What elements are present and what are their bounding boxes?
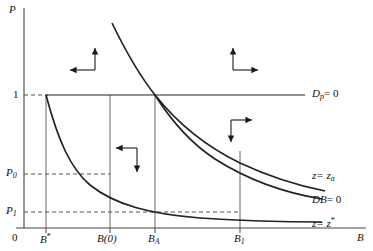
bstar-base: B	[40, 233, 47, 245]
bstar-superscript: *	[47, 232, 51, 241]
db-rhs: = 0	[327, 193, 341, 205]
diagram-canvas	[0, 0, 373, 251]
dp-base: D	[312, 87, 320, 99]
y-tick-label-p0: P0	[6, 167, 17, 180]
dp-rhs: = 0	[324, 87, 338, 99]
curve-label-z-a: z= za	[312, 170, 335, 183]
ba-base: B	[148, 232, 155, 244]
arrow-group-middle-right	[231, 120, 252, 142]
phase-diagram-figure: P B 0 1 P0 P1 B* B(0) BA B1 Dp= 0 z= za …	[0, 0, 373, 251]
curve-label-dp-zero: Dp= 0	[312, 88, 338, 101]
curve-z-a	[112, 23, 325, 191]
y-axis-label: P	[9, 4, 16, 15]
arrow-group-middle-left	[116, 148, 137, 172]
db-lhs: DB	[312, 193, 327, 205]
p0-subscript: 0	[13, 171, 17, 180]
y-tick-label-p1: P1	[6, 205, 17, 218]
za-mid: = z	[316, 169, 330, 181]
p1-subscript: 1	[13, 209, 17, 218]
x-axis-label: B	[357, 232, 364, 243]
x-tick-label-ba: BA	[148, 233, 160, 246]
y-tick-label-one: 1	[13, 89, 19, 100]
x-tick-label-b0: B(0)	[97, 233, 117, 244]
za-subscript: a	[331, 174, 335, 183]
arrow-group-upper-right	[233, 48, 258, 70]
curve-z-star	[46, 95, 322, 222]
curve-label-z-star: z= z*	[312, 217, 335, 229]
p0-base: P	[6, 166, 13, 178]
b1-base: B	[234, 232, 241, 244]
zs-mid: = z	[316, 217, 330, 229]
b1-subscript: 1	[241, 237, 245, 246]
zs-superscript: *	[331, 216, 335, 225]
p1-base: P	[6, 204, 13, 216]
ba-subscript: A	[155, 237, 160, 246]
x-tick-label-bstar: B*	[40, 233, 51, 245]
origin-label: 0	[12, 232, 18, 243]
arrow-group-upper-left	[70, 48, 95, 70]
curve-label-db-zero: DB= 0	[312, 194, 341, 205]
x-tick-label-b1: B1	[234, 233, 245, 246]
